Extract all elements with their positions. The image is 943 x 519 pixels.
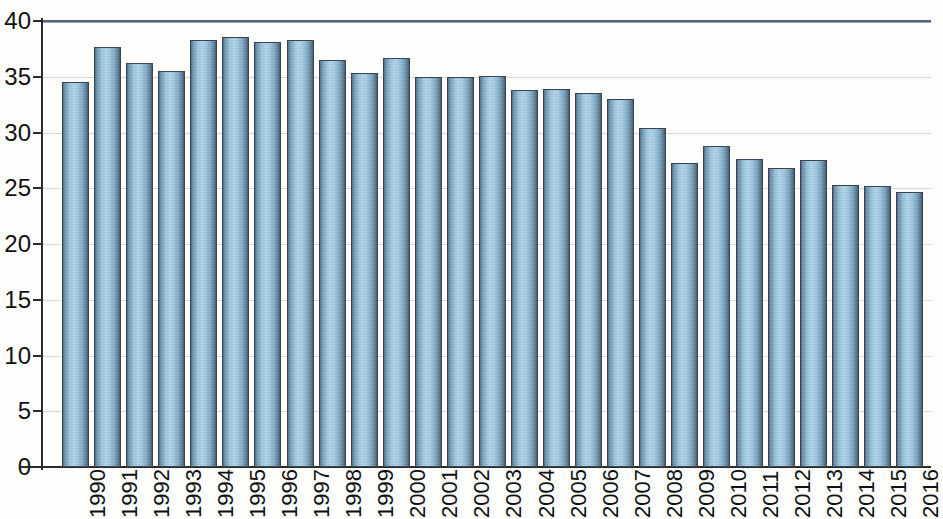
bar-2016: [896, 192, 923, 467]
x-axis-tick-label: 1996: [279, 472, 301, 518]
x-axis-tick-label: 1998: [343, 472, 365, 518]
bar-2004: [511, 90, 538, 467]
y-axis-tick-label: 20: [0, 232, 31, 256]
y-axis-tick-25: [33, 187, 42, 189]
bar-2013: [800, 160, 827, 467]
bar-chart: 0510152025303540 19901991199219931994199…: [0, 0, 943, 519]
y-axis-tick-10: [33, 355, 42, 357]
bar-2009: [671, 163, 698, 467]
x-axis-tick-label: 1992: [151, 472, 173, 518]
x-axis-tick-label: 2016: [920, 472, 942, 518]
bar-2001: [415, 77, 442, 467]
x-axis-tick-label: 2004: [536, 472, 558, 518]
y-axis-tick-label: 40: [0, 9, 31, 33]
y-axis-tick-label: 10: [0, 344, 31, 368]
bar-2014: [832, 185, 859, 467]
x-axis-tick-label: 2013: [824, 472, 846, 518]
x-axis-tick-label: 2014: [856, 472, 878, 518]
bar-1999: [351, 73, 378, 467]
bar-2002: [447, 77, 474, 467]
y-axis-tick-label: 5: [0, 399, 31, 423]
y-axis-tick-15: [33, 299, 42, 301]
bar-1993: [158, 71, 185, 467]
x-axis-tick-label: 2005: [568, 472, 590, 518]
y-axis-tick-5: [33, 410, 42, 412]
bar-2012: [768, 168, 795, 467]
y-axis-tick-20: [33, 243, 42, 245]
x-axis-tick-label: 2006: [600, 472, 622, 518]
x-axis-tick-label: 1995: [247, 472, 269, 518]
x-axis-tick-label: 2007: [632, 472, 654, 518]
y-axis-tick-label: 35: [0, 65, 31, 89]
y-axis-tick-30: [33, 132, 42, 134]
bar-2007: [607, 99, 634, 467]
y-axis-tick-label: 25: [0, 176, 31, 200]
bar-2010: [703, 146, 730, 467]
x-axis-tick-label: 1997: [311, 472, 333, 518]
y-axis-tick-35: [33, 76, 42, 78]
bar-2003: [479, 76, 506, 467]
y-axis-tick-40: [33, 20, 42, 22]
bar-1996: [254, 42, 281, 467]
bar-2005: [543, 89, 570, 467]
x-axis-tick-label: 2008: [664, 472, 686, 518]
y-axis-tick-label: 15: [0, 288, 31, 312]
bar-2006: [575, 93, 602, 467]
x-axis-tick-label: 1990: [87, 472, 109, 518]
x-axis-tick-label: 2000: [407, 472, 429, 518]
bars-container: [42, 21, 931, 467]
x-axis-tick-label: 1994: [215, 472, 237, 518]
bar-1995: [222, 37, 249, 467]
x-axis-tick-label: 2003: [503, 472, 525, 518]
bar-1990: [62, 82, 89, 467]
x-axis-tick-label: 2011: [760, 472, 782, 518]
bar-2011: [736, 159, 763, 467]
bar-2008: [639, 128, 666, 467]
bar-2000: [383, 58, 410, 467]
bar-1991: [94, 47, 121, 467]
y-axis-tick-0: [33, 466, 42, 468]
bar-1997: [287, 40, 314, 467]
x-axis-tick-label: 1999: [375, 472, 397, 518]
bar-1998: [319, 60, 346, 467]
x-axis-tick-label: 1993: [183, 472, 205, 518]
bar-2015: [864, 186, 891, 467]
x-axis-tick-label: 2001: [439, 472, 461, 518]
x-axis-tick-label: 2015: [888, 472, 910, 518]
x-axis-tick-label: 2010: [728, 472, 750, 518]
bar-1994: [190, 40, 217, 467]
x-axis-tick-label: 1991: [119, 472, 141, 518]
bar-1992: [126, 63, 153, 467]
x-axis-tick-label: 2012: [792, 472, 814, 518]
x-axis-tick-label: 2002: [471, 472, 493, 518]
x-axis-tick-label: 2009: [696, 472, 718, 518]
y-axis-tick-label: 30: [0, 121, 31, 145]
